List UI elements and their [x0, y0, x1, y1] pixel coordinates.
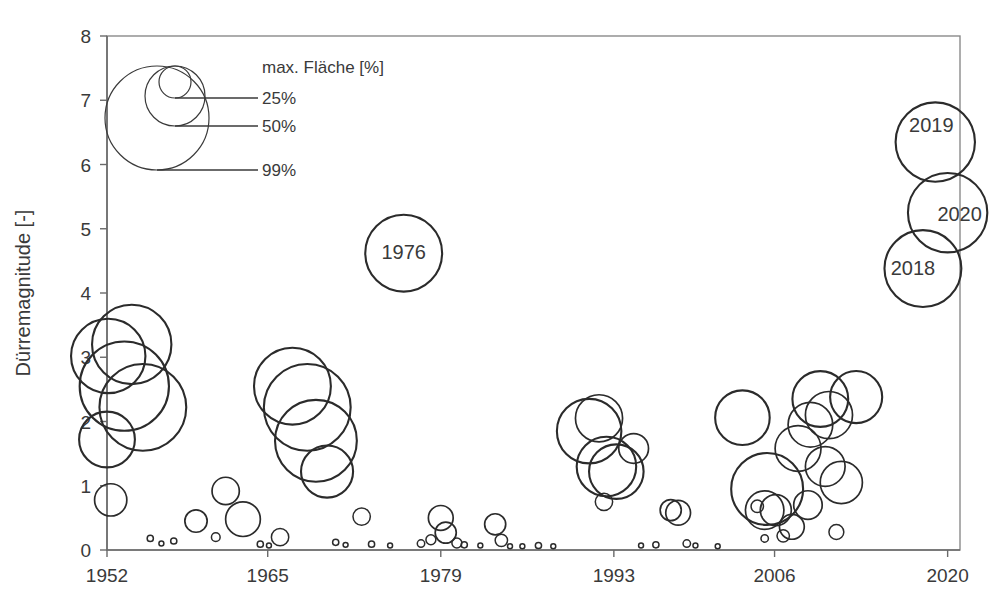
bubble[interactable] — [619, 434, 649, 464]
bubble[interactable] — [693, 543, 698, 548]
bubble[interactable] — [99, 364, 186, 451]
bubble[interactable] — [185, 510, 207, 532]
plot-frame — [107, 36, 960, 550]
bubble-annotation-2018: 2018 — [891, 257, 936, 279]
bubble[interactable] — [760, 495, 791, 526]
y-axis-title: Dürremagnitude [-] — [12, 210, 34, 377]
bubble[interactable] — [353, 508, 370, 525]
bubble[interactable] — [829, 525, 844, 540]
x-tick-label: 1979 — [420, 565, 462, 586]
bubble[interactable] — [683, 540, 690, 547]
bubble[interactable] — [271, 528, 288, 545]
bubble[interactable] — [171, 538, 177, 544]
x-tick-label: 2020 — [926, 565, 968, 586]
bubble[interactable] — [715, 544, 720, 549]
bubble[interactable] — [417, 540, 424, 547]
bubble[interactable] — [388, 543, 393, 548]
bubble[interactable] — [485, 514, 506, 535]
bubble[interactable] — [520, 544, 525, 549]
bubble[interactable] — [575, 395, 622, 442]
bubble[interactable] — [715, 390, 770, 445]
bubble[interactable] — [254, 348, 331, 425]
bubble[interactable] — [343, 542, 348, 547]
bubble[interactable] — [508, 544, 513, 549]
x-tick-label: 1965 — [247, 565, 289, 586]
bubble[interactable] — [428, 505, 453, 530]
y-tick-label: 7 — [80, 90, 91, 111]
bubble[interactable] — [159, 541, 164, 546]
bubble[interactable] — [666, 500, 691, 525]
legend-circle-99 — [105, 66, 209, 170]
bubble[interactable] — [830, 371, 882, 423]
x-tick-label: 1952 — [86, 565, 128, 586]
bubble[interactable] — [147, 535, 153, 541]
bubble[interactable] — [805, 392, 852, 439]
y-tick-label: 6 — [80, 155, 91, 176]
bubble[interactable] — [264, 364, 351, 451]
bubble[interactable] — [266, 543, 271, 548]
bubble[interactable] — [257, 541, 263, 547]
bubble-annotation-1976: 1976 — [381, 241, 426, 263]
bubble[interactable] — [794, 491, 823, 520]
axis-lines — [107, 36, 960, 550]
bubble[interactable] — [478, 543, 483, 548]
y-tick-label: 8 — [80, 26, 91, 47]
y-tick-label: 0 — [80, 540, 91, 561]
legend-circle-25 — [159, 66, 191, 98]
chart-canvas: 012345678195219651979199320062020Dürrema… — [0, 0, 1007, 616]
legend-title: max. Fläche [%] — [262, 58, 384, 77]
bubble[interactable] — [535, 542, 541, 548]
bubble[interactable] — [212, 477, 239, 504]
bubble[interactable] — [495, 534, 507, 546]
legend-entry-label-50: 50% — [262, 117, 296, 136]
bubble[interactable] — [301, 446, 353, 498]
legend-circle-50 — [145, 66, 205, 126]
bubble[interactable] — [95, 484, 127, 516]
bubble[interactable] — [92, 305, 171, 384]
bubble[interactable] — [653, 542, 659, 548]
bubble[interactable] — [426, 535, 436, 545]
bubble[interactable] — [551, 544, 556, 549]
bubble[interactable] — [639, 543, 644, 548]
bubble-annotation-2020: 2020 — [937, 203, 982, 225]
bubble-chart: 012345678195219651979199320062020Dürrema… — [0, 0, 1007, 616]
bubble[interactable] — [452, 538, 462, 548]
y-tick-label: 5 — [80, 219, 91, 240]
bubble[interactable] — [368, 541, 374, 547]
legend-entry-label-99: 99% — [262, 161, 296, 180]
bubble[interactable] — [745, 491, 783, 529]
x-tick-label: 2006 — [753, 565, 795, 586]
bubble[interactable] — [557, 399, 621, 463]
bubble[interactable] — [275, 400, 357, 482]
x-tick-label: 1993 — [593, 565, 635, 586]
bubble[interactable] — [226, 502, 261, 537]
bubble[interactable] — [211, 533, 220, 542]
y-tick-label: 1 — [80, 476, 91, 497]
y-tick-label: 4 — [80, 283, 91, 304]
bubble[interactable] — [761, 535, 768, 542]
legend-entry-label-25: 25% — [262, 89, 296, 108]
bubble[interactable] — [333, 539, 339, 545]
bubble[interactable] — [820, 461, 862, 503]
bubble-annotation-2019: 2019 — [909, 114, 954, 136]
